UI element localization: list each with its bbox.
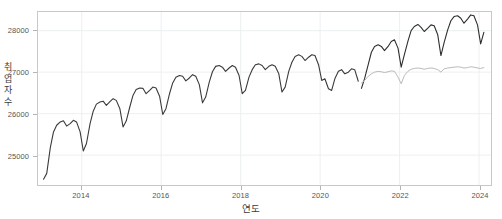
y-axis-tick-label: 28000	[8, 25, 29, 34]
x-axis-tick-label: 2022	[392, 191, 409, 200]
x-axis-tick-mark	[480, 186, 481, 190]
x-axis-tick-label: 2020	[312, 191, 329, 200]
y-axis-tick-mark	[33, 30, 37, 31]
plot-area	[37, 11, 492, 186]
x-axis-tick-label: 2016	[152, 191, 169, 200]
y-axis-tick-mark	[33, 72, 37, 73]
x-axis-tick-mark	[241, 186, 242, 190]
x-axis-tick-mark	[81, 186, 82, 190]
y-axis-tick-label: 25000	[8, 151, 29, 160]
series-line	[361, 15, 483, 88]
y-axis-tick-label: 27000	[8, 67, 29, 76]
y-axis-tick-mark	[33, 114, 37, 115]
series-line	[44, 55, 359, 179]
x-axis-tick-label: 2024	[471, 191, 488, 200]
data-series-layer	[38, 12, 491, 185]
x-axis-title: 연도	[0, 201, 502, 215]
x-axis-tick-mark	[161, 186, 162, 190]
x-axis-tick-mark	[400, 186, 401, 190]
series-line	[361, 67, 483, 84]
x-axis-tick-mark	[320, 186, 321, 190]
y-axis-tick-labels: 25000260002700028000	[0, 0, 34, 219]
employment-time-series-chart: 취업자수 25000260002700028000 20142016201820…	[0, 0, 502, 219]
x-axis-tick-label: 2014	[72, 191, 89, 200]
y-axis-tick-mark	[33, 156, 37, 157]
y-axis-tick-label: 26000	[8, 109, 29, 118]
x-axis-tick-label: 2018	[232, 191, 249, 200]
